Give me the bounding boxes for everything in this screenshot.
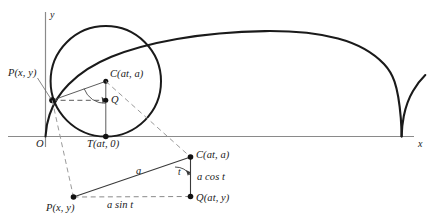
lower-triangle-group [71, 154, 194, 200]
side-vertical-label: a cos t [197, 172, 225, 183]
p-label-leader-line [38, 78, 52, 99]
radius-CP-line [52, 81, 106, 100]
point-P-lower-label: P(x, y) [46, 203, 75, 214]
point-P-upper-label: P(x, y) [8, 68, 37, 79]
cycloid-curve-next-arch [402, 75, 426, 136]
point-C-lower-dot [188, 154, 194, 160]
point-Q-upper-label: Q [111, 95, 119, 106]
point-Q-lower-dot [188, 194, 194, 200]
side-horizontal-label: a sin t [107, 200, 133, 211]
x-axis-label: x [418, 139, 423, 149]
y-axis-label: y [50, 10, 55, 20]
point-T-upper-label: T(at, 0) [87, 139, 119, 150]
point-C-lower-label: C(at, a) [196, 150, 229, 161]
origin-label: O [36, 139, 44, 150]
angle-t-lower-label: t [178, 168, 181, 178]
projection-lines-group [52, 81, 190, 197]
cycloid-curve-group [46, 31, 426, 136]
point-P-lower-dot [71, 194, 77, 200]
point-Q-lower-label: Q(at, y) [196, 193, 229, 204]
side-hypotenuse-label: a [136, 166, 141, 177]
figure-canvas [0, 0, 441, 224]
cycloid-figure: y x O P(x, y) C(at, a) Q T(at, 0) C(at, … [0, 0, 441, 224]
p-label-leader-group [38, 78, 52, 99]
axes-group [8, 12, 414, 147]
point-C-upper-label: C(at, a) [110, 69, 143, 80]
triangle-hypotenuse-PC [74, 157, 191, 197]
point-Q-upper-dot [103, 98, 108, 103]
triangle-side-PQ-dashed [74, 197, 191, 198]
